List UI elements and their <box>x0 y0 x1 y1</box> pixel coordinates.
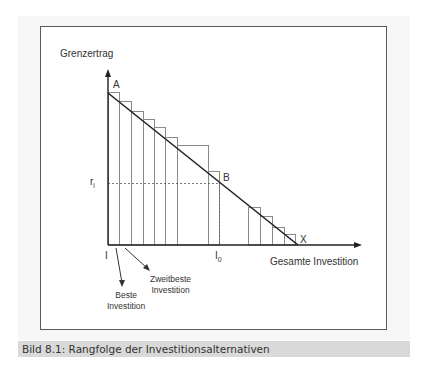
annotation-best: Beste Investition <box>107 290 145 312</box>
point-x-label: X <box>300 234 307 245</box>
point-b-label: B <box>223 172 230 183</box>
annotation-second-best: Zweitbeste Investition <box>150 274 191 296</box>
marginal-return-line <box>108 93 298 245</box>
y-axis-label: Grenzertrag <box>60 48 113 59</box>
best-arrow <box>116 248 122 283</box>
y-axis-arrow-icon <box>105 69 111 77</box>
x-axis-arrow-icon <box>354 242 362 248</box>
x-axis-label: Gesamte Investition <box>270 256 358 267</box>
origin-label: I <box>105 250 108 261</box>
point-a-label: A <box>113 79 120 90</box>
rate-label: ri <box>90 176 95 189</box>
figure-caption: Bild 8.1: Rangfolge der Investitionsalte… <box>18 341 410 357</box>
second-arrow <box>125 248 147 268</box>
best-arrow-head-icon <box>119 280 125 287</box>
i0-label: I0 <box>215 250 222 263</box>
